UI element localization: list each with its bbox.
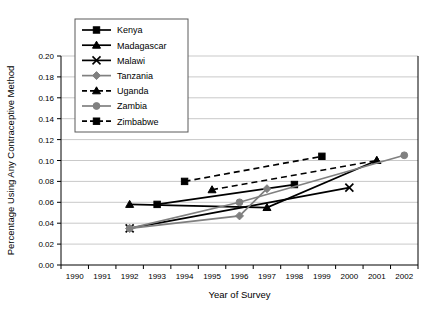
x-axis-tick-label: 1991	[93, 272, 111, 281]
legend-item-label: Malawi	[117, 56, 145, 66]
legend-item-label: Kenya	[117, 25, 143, 35]
legend-marker	[93, 27, 99, 33]
legend-item-label: Tanzania	[117, 71, 153, 81]
data-point-marker	[126, 225, 133, 232]
chart-container: 0.000.020.040.060.080.100.120.140.160.18…	[0, 0, 439, 310]
x-axis-tick-label: 2001	[368, 272, 386, 281]
x-axis-tick-label: 1999	[313, 272, 331, 281]
x-axis-tick-label: 1996	[231, 272, 249, 281]
legend-item-label: Zimbabwe	[117, 117, 159, 127]
data-point-marker	[319, 153, 325, 159]
y-axis-title: Percentage Using Any Contraceptive Metho…	[5, 66, 16, 256]
y-axis-tick-label: 0.20	[38, 52, 54, 61]
y-axis-tick-label: 0.16	[38, 94, 54, 103]
y-axis-tick-label: 0.00	[38, 261, 54, 270]
y-axis-tick-label: 0.14	[38, 115, 54, 124]
x-axis-title: Year of Survey	[209, 289, 271, 300]
y-axis-tick-label: 0.08	[38, 177, 54, 186]
x-axis-tick-label: 1998	[286, 272, 304, 281]
y-axis-tick-label: 0.10	[38, 157, 54, 166]
x-axis-tick-label: 1994	[176, 272, 194, 281]
x-axis-tick-label: 1997	[258, 272, 276, 281]
y-axis-tick-label: 0.18	[38, 73, 54, 82]
y-axis-tick-label: 0.02	[38, 240, 54, 249]
data-point-marker	[236, 199, 243, 206]
contraceptive-use-line-chart: 0.000.020.040.060.080.100.120.140.160.18…	[0, 0, 439, 310]
legend-marker	[93, 118, 99, 124]
legend-item-label: Zambia	[117, 101, 147, 111]
y-axis-tick-label: 0.06	[38, 198, 54, 207]
data-point-marker	[401, 152, 408, 159]
legend-item-label: Uganda	[117, 86, 149, 96]
y-axis-tick-label: 0.12	[38, 136, 54, 145]
x-axis-tick-label: 1992	[121, 272, 139, 281]
data-point-marker	[181, 178, 187, 184]
legend: KenyaMadagascarMalawiTanzaniaUgandaZambi…	[75, 19, 188, 132]
x-axis-tick-label: 2000	[340, 272, 358, 281]
x-axis-tick-label: 2002	[395, 272, 413, 281]
y-axis-tick-label: 0.04	[38, 219, 54, 228]
x-axis-tick-label: 1990	[66, 272, 84, 281]
legend-marker	[93, 103, 100, 110]
legend-item-label: Madagascar	[117, 41, 167, 51]
x-axis-tick-label: 1995	[203, 272, 221, 281]
x-axis-tick-label: 1993	[148, 272, 166, 281]
